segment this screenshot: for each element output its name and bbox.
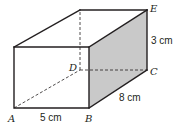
measure-label-bc: 8 cm	[119, 92, 141, 103]
hidden-edge-ad	[14, 70, 80, 108]
measure-label-ab: 5 cm	[40, 112, 62, 123]
vertex-label-d: D	[68, 62, 77, 73]
vertex-label-b: B	[84, 113, 92, 124]
cuboid-diagram: A B C D E 5 cm 8 cm 3 cm	[0, 0, 175, 129]
vertex-label-a: A	[7, 113, 15, 124]
front-face	[14, 47, 89, 108]
edge-top-left	[14, 10, 80, 47]
vertex-label-e: E	[149, 3, 158, 14]
measure-label-ce: 3 cm	[151, 35, 173, 46]
vertex-label-c: C	[150, 66, 158, 77]
